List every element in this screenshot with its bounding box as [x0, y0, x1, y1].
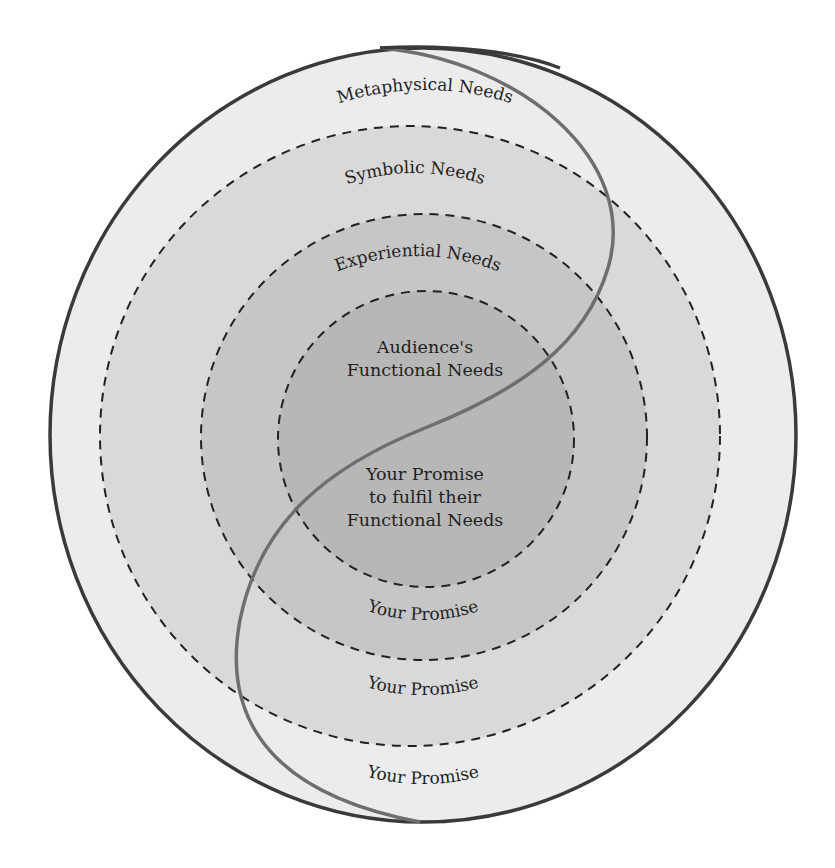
label-core-promise-line2: to fulfil their	[369, 487, 482, 507]
label-functional-needs-line1: Audience's	[376, 337, 473, 357]
label-core-promise-line3: Functional Needs	[347, 510, 504, 530]
functional-core	[278, 291, 574, 587]
label-functional-needs-line2: Functional Needs	[347, 360, 504, 380]
label-core-promise-line1: Your Promise	[365, 464, 484, 484]
needs-promise-diagram: Metaphysical Needs Symbolic Needs Experi…	[0, 0, 835, 868]
